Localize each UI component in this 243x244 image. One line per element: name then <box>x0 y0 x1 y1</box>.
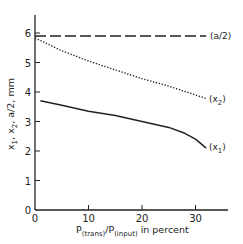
x-tick-label: 10 <box>82 213 95 224</box>
y-tick-label: 3 <box>25 117 31 128</box>
series-label-a2: (a/2) <box>210 31 231 41</box>
series-label-x2: (x2) <box>209 94 226 107</box>
x-ticks: 0102030 <box>32 205 202 224</box>
y-tick-label: 4 <box>25 87 31 98</box>
series-line-2 <box>40 101 206 148</box>
y-ticks: 0123456 <box>25 28 40 216</box>
y-tick-label: 5 <box>25 58 31 69</box>
y-axis-title: x1, x2, a/2, mm <box>5 78 19 150</box>
x-axis-title: P(trans)/P(input) in percent <box>76 224 189 238</box>
y-tick-label: 1 <box>25 176 31 187</box>
x-tick-label: 30 <box>189 213 202 224</box>
chart: 0123456 0102030 (a/2) (x2) (x1) P(trans)… <box>0 0 243 244</box>
series-label-x1: (x1) <box>209 142 226 155</box>
x-tick-label: 20 <box>136 213 149 224</box>
y-tick-label: 2 <box>25 146 31 157</box>
y-tick-label: 0 <box>25 205 31 216</box>
series-line-1 <box>35 38 206 99</box>
x-tick-label: 0 <box>32 213 38 224</box>
series-group <box>35 36 206 148</box>
y-tick-label: 6 <box>25 28 31 39</box>
